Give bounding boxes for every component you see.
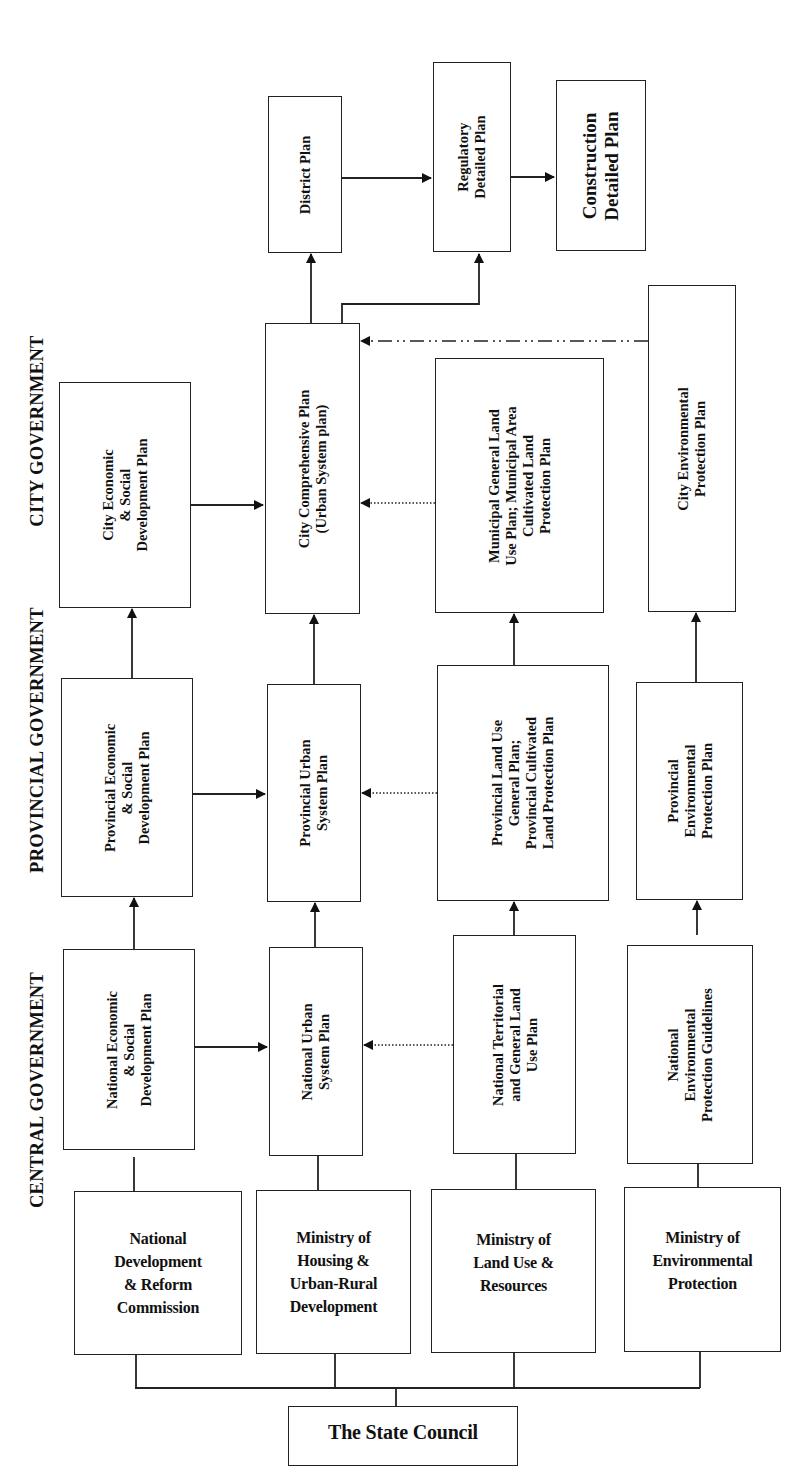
national-urban-system-plan-label: National Urban System Plan	[299, 947, 333, 1156]
construction-detailed-plan-label: Construction Detailed Plan	[579, 80, 623, 251]
national-land-use-plan-label: National Territorial and General Land Us…	[489, 935, 540, 1154]
city-comprehensive-plan-label: City Comprehensive Plan (Urban System pl…	[296, 323, 330, 614]
agency-box-land: Ministry of Land Use & Resources	[431, 1189, 596, 1353]
district-plan-label: District Plan	[297, 96, 314, 253]
agency-label-environment: Ministry of Environmental Protection	[625, 1188, 780, 1351]
agency-box-environment: Ministry of Environmental Protection	[624, 1187, 781, 1352]
level-label-provincial: PROVINCIAL GOVERNMENT	[27, 607, 48, 873]
provincial-urban-system-plan-label: Provincial Urban System Plan	[297, 684, 331, 902]
agency-label-land: Ministry of Land Use & Resources	[432, 1190, 595, 1352]
level-label-city: CITY GOVERNMENT	[27, 335, 48, 526]
regulatory-detailed-plan-box: Regulatory Detailed Plan	[433, 62, 511, 252]
agency-box-housing: Ministry of Housing & Urban-Rural Develo…	[256, 1190, 411, 1354]
municipal-land-use-plan-label: Municipal General Land Use Plan; Municip…	[486, 358, 554, 613]
agency-box-ndrc: National Development & Reform Commission	[74, 1191, 242, 1355]
level-label-central: CENTRAL GOVERNMENT	[27, 972, 48, 1208]
regulatory-detailed-plan-label: Regulatory Detailed Plan	[455, 62, 489, 252]
provincial-environmental-plan-label: Provincial Environmental Protection Plan	[664, 682, 715, 900]
provincial-land-use-plan-box: Provincial Land Use General Plan; Provin…	[437, 665, 609, 901]
national-environmental-guidelines-box: National Environmental Protection Guidel…	[627, 945, 753, 1164]
national-urban-system-plan-box: National Urban System Plan	[269, 947, 363, 1156]
national-land-use-plan-box: National Territorial and General Land Us…	[453, 935, 576, 1154]
national-environmental-guidelines-label: National Environmental Protection Guidel…	[665, 945, 716, 1164]
national-economic-plan-label: National Economic & Social Development P…	[104, 949, 155, 1150]
city-environmental-plan-box: City Environmental Protection Plan	[648, 285, 736, 612]
city-economic-plan-label: City Economic & Social Development Plan	[100, 382, 151, 608]
agency-label-ndrc: National Development & Reform Commission	[75, 1192, 241, 1354]
city-comprehensive-plan-box: City Comprehensive Plan (Urban System pl…	[265, 323, 360, 614]
provincial-urban-system-plan-box: Provincial Urban System Plan	[267, 684, 361, 902]
state-council-label: The State Council	[289, 1407, 517, 1465]
national-economic-plan-box: National Economic & Social Development P…	[63, 949, 195, 1150]
agency-label-housing: Ministry of Housing & Urban-Rural Develo…	[257, 1191, 410, 1353]
provincial-economic-plan-box: Provincial Economic & Social Development…	[61, 678, 193, 897]
construction-detailed-plan-box: Construction Detailed Plan	[556, 80, 646, 251]
city-economic-plan-box: City Economic & Social Development Plan	[59, 382, 191, 608]
provincial-economic-plan-label: Provincial Economic & Social Development…	[102, 678, 153, 897]
state-council-box: The State Council	[288, 1406, 518, 1466]
district-plan-box: District Plan	[268, 96, 342, 253]
city-environmental-plan-label: City Environmental Protection Plan	[675, 285, 709, 612]
provincial-land-use-plan-label: Provincial Land Use General Plan; Provin…	[489, 665, 557, 901]
municipal-land-use-plan-box: Municipal General Land Use Plan; Municip…	[435, 358, 604, 613]
provincial-environmental-plan-box: Provincial Environmental Protection Plan	[636, 682, 743, 900]
